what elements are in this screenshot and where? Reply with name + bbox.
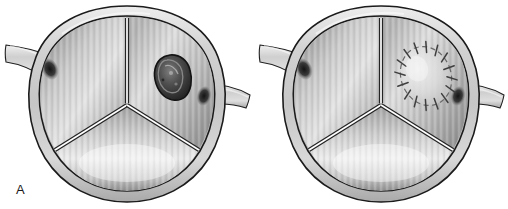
panel-a: A xyxy=(0,0,254,209)
figure-container: A xyxy=(0,0,508,209)
panel-label-a: A xyxy=(16,183,25,196)
leaflet-non-coronary-highlight xyxy=(333,144,429,182)
leaflet-non-coronary-highlight xyxy=(79,144,175,182)
aortic-valve-diagram-a xyxy=(0,0,254,209)
aortic-valve-diagram-b xyxy=(254,0,508,209)
panel-b: B xyxy=(254,0,508,209)
